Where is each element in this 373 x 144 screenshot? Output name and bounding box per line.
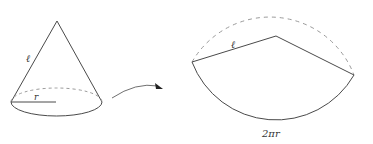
sector-right-radius: [276, 36, 354, 75]
cone-base-front: [11, 102, 102, 116]
sector: ℓ 2πr: [192, 17, 354, 139]
arrow-curve: [112, 85, 158, 98]
cone-net-diagram: ℓ r ℓ 2πr: [0, 0, 373, 144]
sector-arc-label: 2πr: [261, 128, 281, 139]
cone-base-back-dashed: [11, 88, 102, 102]
sector-radius-label: ℓ: [231, 39, 235, 50]
arrow-head-icon: [155, 83, 163, 89]
sector-dashed-circle: [192, 17, 354, 75]
cone-left-slant: [11, 21, 57, 102]
cone-slant-label: ℓ: [26, 53, 30, 64]
cone: ℓ r: [11, 21, 102, 116]
transform-arrow: [112, 83, 163, 98]
sector-arc: [192, 62, 354, 120]
cone-radius-label: r: [34, 92, 39, 102]
